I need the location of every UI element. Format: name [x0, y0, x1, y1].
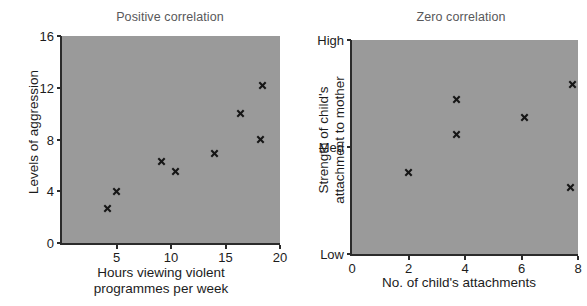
x-axis-tick-label: 0	[348, 261, 355, 276]
x-axis-tick	[464, 256, 466, 260]
y-axis-line	[60, 36, 62, 245]
y-axis-line	[350, 40, 352, 256]
y-axis-title-positive-correlation: Levels of aggression	[26, 32, 42, 232]
y-axis-title-zero-correlation: Strength of child's attachment to mother	[316, 30, 349, 250]
x-axis-tick	[521, 256, 523, 260]
chart-panel-positive-correlation: Positive correlation 04812165101520 Hour…	[0, 0, 294, 306]
chart-title-zero-correlation: Zero correlation	[346, 10, 576, 24]
x-axis-tick-label: 2	[405, 261, 412, 276]
x-axis-tick-label: 10	[164, 250, 178, 265]
x-axis-tick-label: 20	[273, 250, 287, 265]
plot-area-zero-correlation	[352, 40, 578, 254]
x-axis-tick	[116, 245, 118, 249]
scatterplot-figure: Positive correlation 04812165101520 Hour…	[0, 0, 587, 306]
chart-title-positive-correlation: Positive correlation	[58, 10, 282, 24]
x-axis-title-positive-correlation: Hours viewing violent programmes per wee…	[36, 265, 286, 298]
y-axis-tick	[57, 35, 61, 37]
x-axis-tick	[408, 256, 410, 260]
x-axis-tick	[225, 245, 227, 249]
y-axis-tick	[57, 87, 61, 89]
x-axis-tick	[577, 256, 579, 260]
y-axis-tick	[57, 242, 61, 244]
y-axis-tick	[57, 190, 61, 192]
plot-area-positive-correlation	[62, 36, 280, 243]
y-axis-tick	[347, 253, 351, 255]
x-axis-tick-label: 8	[574, 261, 581, 276]
x-axis-tick-label: 6	[518, 261, 525, 276]
y-axis-tick-label: 0	[0, 236, 54, 251]
x-axis-tick-label: 4	[461, 261, 468, 276]
x-axis-tick	[170, 245, 172, 249]
x-axis-tick-label: 15	[218, 250, 232, 265]
y-axis-tick	[57, 139, 61, 141]
x-axis-tick	[279, 245, 281, 249]
x-axis-title-zero-correlation: No. of child's attachments	[334, 275, 584, 291]
chart-panel-zero-correlation: Zero correlation LowMedHigh02468 No. of …	[294, 0, 587, 306]
x-axis-tick-label: 5	[113, 250, 120, 265]
